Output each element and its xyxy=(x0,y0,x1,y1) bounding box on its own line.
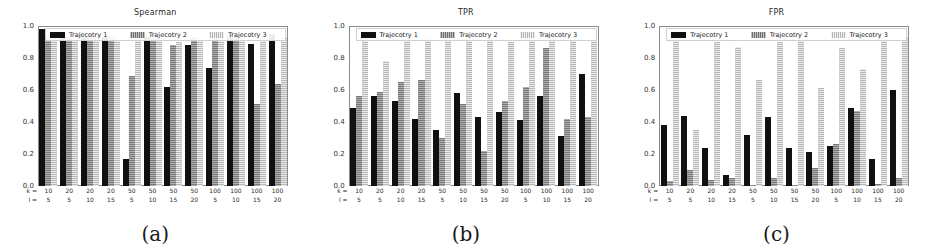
subfigure-caption: (c) xyxy=(621,222,932,246)
bar-series-3 xyxy=(404,37,410,186)
bar-series-3 xyxy=(818,88,824,186)
x-tick-k: 20 xyxy=(701,186,722,195)
x-tick-k: 100 xyxy=(267,186,288,195)
x-tick-k: 50 xyxy=(142,186,163,195)
chart-legend: Trajecotry 1Trajecotry 2Trajecotry 3 xyxy=(666,28,907,41)
bar-series-3 xyxy=(51,37,57,186)
legend-swatch-2 xyxy=(440,32,455,38)
bar-series-3 xyxy=(239,37,245,186)
x-tick-k: 100 xyxy=(205,186,226,195)
legend-swatch-3 xyxy=(209,32,224,38)
bar-group xyxy=(453,26,474,186)
bar-group xyxy=(494,26,515,186)
x-tick-l: 5 xyxy=(369,195,390,204)
chart-legend: Trajecotry 1Trajecotry 2Trajecotry 3 xyxy=(356,28,597,41)
bar-group xyxy=(659,26,680,186)
x-tick-l: 20 xyxy=(184,195,205,204)
bar-series-3 xyxy=(839,48,845,186)
bar-series-3 xyxy=(735,47,741,186)
x-tick-k: 50 xyxy=(474,186,495,195)
bar-group xyxy=(536,26,557,186)
bar-group xyxy=(38,26,59,186)
x-tick-k: 100 xyxy=(246,186,267,195)
subfigure-caption: (b) xyxy=(311,222,622,246)
x-tick-k: 100 xyxy=(557,186,578,195)
bar-series-3 xyxy=(714,42,720,186)
legend-entry: Trajecotry 2 xyxy=(747,31,827,39)
legend-swatch-1 xyxy=(361,32,376,38)
x-tick-k: 100 xyxy=(515,186,536,195)
bar-series-3 xyxy=(383,61,389,186)
bar-series-3 xyxy=(881,37,887,186)
y-axis-tick: 0.8 xyxy=(644,54,659,62)
legend-swatch-2 xyxy=(751,32,766,38)
x-tick-l: 10 xyxy=(536,195,557,204)
legend-label: Trajecotry 1 xyxy=(69,31,107,39)
y-axis-tick: 0.8 xyxy=(333,54,348,62)
x-tick-l: 5 xyxy=(743,195,764,204)
chart-panel-a: Spearman1.00.80.60.40.20.0k =10202020505… xyxy=(0,0,311,250)
x-axis-prefix-l: l = xyxy=(650,195,660,204)
bar-group xyxy=(246,26,267,186)
legend-swatch-3 xyxy=(831,32,846,38)
legend-label: Trajecotry 2 xyxy=(149,31,187,39)
bar-series-3 xyxy=(673,37,679,186)
plot-area: 1.00.80.60.40.20.0k =1020202050505050100… xyxy=(659,26,909,186)
x-tick-l: 15 xyxy=(557,195,578,204)
legend-entry: Trajecotry 1 xyxy=(46,31,126,39)
x-tick-k: 20 xyxy=(680,186,701,195)
x-tick-l: 15 xyxy=(246,195,267,204)
legend-label: Trajecotry 2 xyxy=(770,31,808,39)
x-tick-k: 50 xyxy=(453,186,474,195)
legend-label: Trajecotry 3 xyxy=(228,31,266,39)
x-tick-k: 20 xyxy=(369,186,390,195)
bar-series-3 xyxy=(860,69,866,186)
x-tick-l: 15 xyxy=(867,195,888,204)
x-tick-l: 5 xyxy=(38,195,59,204)
bar-group xyxy=(743,26,764,186)
x-axis-labels: k =1020202050505050100100100100l =551015… xyxy=(659,186,909,204)
bar-series-3 xyxy=(93,37,99,186)
bar-group xyxy=(390,26,411,186)
x-tick-k: 20 xyxy=(411,186,432,195)
bar-series-3 xyxy=(197,37,203,186)
bar-group xyxy=(867,26,888,186)
x-tick-l: 5 xyxy=(826,195,847,204)
bar-group xyxy=(411,26,432,186)
bar-group xyxy=(205,26,226,186)
x-tick-k: 100 xyxy=(578,186,599,195)
x-tick-k: 100 xyxy=(225,186,246,195)
x-tick-l: 5 xyxy=(121,195,142,204)
bar-series-3 xyxy=(281,37,287,186)
legend-label: Trajecotry 2 xyxy=(459,31,497,39)
bar-series-3 xyxy=(176,42,182,186)
bar-series-3 xyxy=(756,80,762,186)
bar-group xyxy=(121,26,142,186)
chart-title: TPR xyxy=(311,8,622,17)
y-axis-tick: 1.0 xyxy=(23,22,38,30)
x-tick-l: 15 xyxy=(100,195,121,204)
x-axis-labels: k =1020202050505050100100100100l =551015… xyxy=(38,186,288,204)
y-axis-tick: 0.6 xyxy=(644,86,659,94)
bar-series-3 xyxy=(466,37,472,186)
bar-group xyxy=(80,26,101,186)
x-tick-l: 10 xyxy=(847,195,868,204)
x-tick-k: 20 xyxy=(722,186,743,195)
bar-group xyxy=(888,26,909,186)
x-tick-k: 50 xyxy=(184,186,205,195)
legend-swatch-2 xyxy=(130,32,145,38)
x-tick-k: 20 xyxy=(390,186,411,195)
bar-series-3 xyxy=(445,37,451,186)
x-tick-l: 20 xyxy=(578,195,599,204)
legend-entry: Trajecotry 3 xyxy=(827,31,907,39)
x-tick-k: 100 xyxy=(826,186,847,195)
bar-group xyxy=(349,26,370,186)
x-tick-k: 50 xyxy=(163,186,184,195)
bar-group xyxy=(474,26,495,186)
bar-series-3 xyxy=(135,37,141,186)
x-tick-l: 5 xyxy=(205,195,226,204)
bar-group xyxy=(722,26,743,186)
bar-series-3 xyxy=(425,37,431,186)
bar-series-3 xyxy=(260,37,266,186)
chart-title: FPR xyxy=(621,8,932,17)
